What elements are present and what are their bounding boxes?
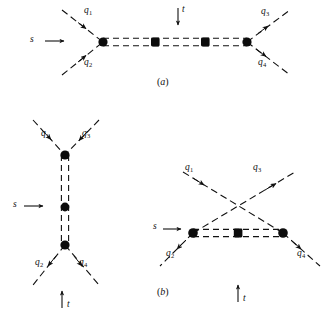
line-q4-panel-a xyxy=(247,42,290,75)
label-q1-subscript-panel-b-right: 1 xyxy=(190,166,193,173)
vertex-blob xyxy=(234,229,243,238)
label-q1-panel-b-left: q1 xyxy=(41,129,49,139)
label-q2-panel-b-right: q2 xyxy=(166,249,174,259)
vertex-blob xyxy=(60,150,69,159)
panel-b-left-graphics xyxy=(24,120,99,308)
label-q4-panel-b-right: q4 xyxy=(297,249,305,259)
label-q2-subscript-panel-b-left: 2 xyxy=(40,261,43,268)
vertex-blob xyxy=(60,240,69,249)
vertex-blob xyxy=(98,37,107,46)
label-s-panel-b-right: s xyxy=(153,222,157,232)
label-t-panel-b-left: t xyxy=(67,300,70,310)
label-q4-subscript-panel-b-left: 4 xyxy=(84,261,87,268)
caption-panel-b: (b) xyxy=(157,287,169,297)
caption-panel-a: (a) xyxy=(157,77,169,87)
label-q4-panel-a: q4 xyxy=(258,58,266,68)
figure-container: s q1 q2 q3 q4 t (a) q1 q3 q2 q4 s t q1 q xyxy=(0,0,328,314)
arrow-q2-panel-b-left xyxy=(48,256,56,266)
label-s-panel-b-left: s xyxy=(13,200,17,210)
caption-b-close-paren: ) xyxy=(165,286,168,297)
label-q3-subscript-panel-b-right: 3 xyxy=(258,166,261,173)
label-q3-panel-b-left: q3 xyxy=(82,129,90,139)
label-q2-panel-b-left: q2 xyxy=(35,258,43,268)
label-q4-subscript-panel-a: 4 xyxy=(263,61,266,68)
vertex-blob xyxy=(61,203,70,212)
arrow-q3-panel-a xyxy=(258,26,268,34)
caption-a-close-paren: ) xyxy=(165,76,168,87)
label-q2-subscript-panel-b-right: 2 xyxy=(171,252,174,259)
line-q2-panel-b-right xyxy=(160,233,193,266)
arrow-q2-panel-b-right xyxy=(177,240,186,249)
vertex-blob xyxy=(278,228,288,238)
label-q2-panel-a: q2 xyxy=(84,58,92,68)
label-q3-panel-b-right: q3 xyxy=(253,163,261,173)
vertex-blob xyxy=(242,37,251,46)
label-q1-panel-a: q1 xyxy=(84,6,92,16)
label-q1-subscript-panel-b-left: 1 xyxy=(46,132,49,139)
label-q4-subscript-panel-b-right: 4 xyxy=(302,252,305,259)
vertex-blob xyxy=(151,38,160,47)
label-s-panel-a: s xyxy=(30,35,34,45)
arrow-q3-panel-b-right xyxy=(265,184,276,191)
label-q3-subscript-panel-a: 3 xyxy=(266,10,269,17)
label-q2-subscript-panel-a: 2 xyxy=(89,61,92,68)
vertex-blob xyxy=(201,38,210,47)
panel-a-graphics xyxy=(45,8,290,75)
label-q1-subscript-panel-a: 1 xyxy=(89,9,92,16)
vertex-blob xyxy=(188,228,198,238)
label-t-panel-a: t xyxy=(182,5,185,15)
panel-b-right-graphics xyxy=(160,172,320,302)
label-t-panel-b-right: t xyxy=(243,294,246,304)
arrow-q4-panel-a xyxy=(256,49,266,57)
diagram-canvas xyxy=(0,0,328,314)
label-q1-panel-b-right: q1 xyxy=(185,163,193,173)
line-q3-panel-b-right xyxy=(193,172,295,233)
label-q3-subscript-panel-b-left: 3 xyxy=(87,132,90,139)
arrow-q1-panel-a xyxy=(78,23,86,29)
label-q4-panel-b-left: q4 xyxy=(79,258,87,268)
arrow-q1-panel-b-right xyxy=(193,178,204,185)
label-q3-panel-a: q3 xyxy=(261,7,269,17)
